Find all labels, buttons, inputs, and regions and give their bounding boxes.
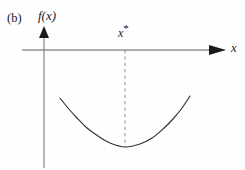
y-axis-label: f(x) (38, 9, 56, 22)
y-axis-arrowhead-icon (39, 26, 49, 38)
optimum-point-star: * (123, 22, 129, 34)
x-axis-label: x (231, 42, 237, 55)
panel-label: (b) (7, 12, 22, 25)
figure-container: (b) f(x) x x* (0, 0, 245, 170)
x-axis-arrowhead-icon (209, 45, 226, 55)
optimum-point-label: x* (118, 27, 129, 39)
